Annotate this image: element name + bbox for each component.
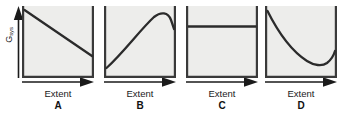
panel-b bbox=[104, 6, 176, 78]
panel-d-x-label: Extent bbox=[265, 88, 337, 100]
panel-a bbox=[22, 6, 94, 78]
panel-b-x-label: Extent bbox=[104, 88, 176, 100]
panel-b-curve bbox=[104, 6, 176, 78]
panel-a-letter: A bbox=[22, 100, 94, 112]
panel-b-x-axis: Extent bbox=[104, 78, 176, 90]
panel-d bbox=[265, 6, 337, 78]
panel-a-x-label: Extent bbox=[22, 88, 94, 100]
panel-b-letter: B bbox=[104, 100, 176, 112]
y-axis-group: Gsys bbox=[0, 6, 22, 78]
panel-a-x-axis: Extent bbox=[22, 78, 94, 90]
panel-c-x-label: Extent bbox=[186, 88, 258, 100]
panel-d-x-axis: Extent bbox=[265, 78, 337, 90]
panel-d-curve bbox=[265, 6, 337, 78]
panel-c bbox=[186, 6, 258, 78]
panel-c-x-axis: Extent bbox=[186, 78, 258, 90]
free-energy-panel-figure: Gsys Extent A bbox=[0, 0, 337, 116]
y-axis-label: Gsys bbox=[2, 13, 16, 57]
panel-c-curve bbox=[186, 6, 258, 78]
panel-c-letter: C bbox=[186, 100, 258, 112]
panel-d-letter: D bbox=[265, 100, 337, 112]
panel-a-curve bbox=[22, 6, 94, 78]
